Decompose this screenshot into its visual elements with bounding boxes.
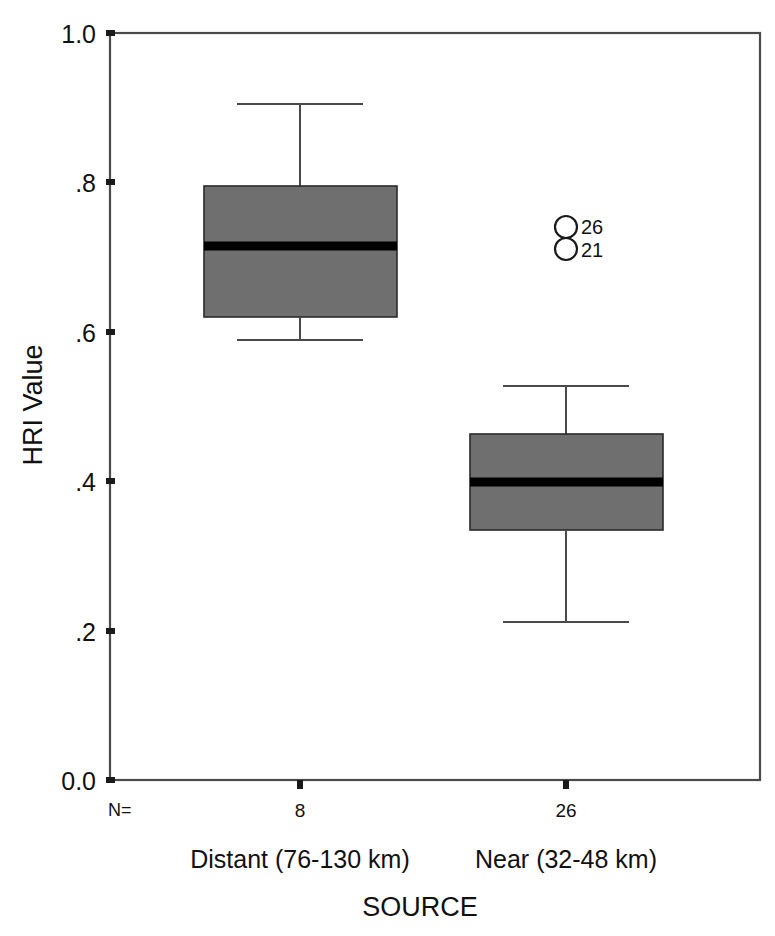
box-plot-near: 26 21 bbox=[470, 216, 663, 622]
y-tick-label-5: .2 bbox=[75, 618, 96, 646]
box-distant bbox=[204, 186, 397, 317]
y-tick-label-4: .4 bbox=[75, 468, 96, 496]
y-tick-label-6: 0.0 bbox=[61, 767, 96, 795]
outlier-marker-21 bbox=[555, 238, 577, 260]
y-tick-label-2: .8 bbox=[75, 169, 96, 197]
outlier-marker-26 bbox=[555, 216, 577, 238]
category-label-distant: Distant (76-130 km) bbox=[190, 845, 410, 873]
box-plot-figure: 1.0 .8 .6 .4 .2 0.0 HRI Value 26 bbox=[0, 0, 775, 936]
box-plot-distant bbox=[204, 104, 397, 340]
y-tick-label-1: 1.0 bbox=[61, 20, 96, 48]
plot-frame bbox=[110, 33, 760, 780]
y-axis-title: HRI Value bbox=[18, 344, 48, 465]
outlier-label-26: 26 bbox=[581, 216, 603, 238]
n-value-near: 26 bbox=[555, 800, 576, 821]
n-row-label: N= bbox=[108, 800, 132, 820]
n-value-distant: 8 bbox=[295, 800, 306, 821]
x-axis-ticks bbox=[300, 780, 566, 789]
y-tick-label-3: .6 bbox=[75, 319, 96, 347]
x-axis-title: SOURCE bbox=[362, 892, 478, 922]
category-label-near: Near (32-48 km) bbox=[475, 845, 657, 873]
outlier-label-21: 21 bbox=[581, 239, 603, 261]
